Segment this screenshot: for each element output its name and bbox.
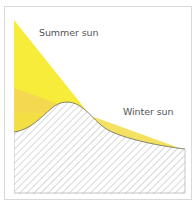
winter-sun-label: Winter sun bbox=[123, 106, 173, 117]
summer-sun-label: Summer sun bbox=[39, 27, 98, 38]
